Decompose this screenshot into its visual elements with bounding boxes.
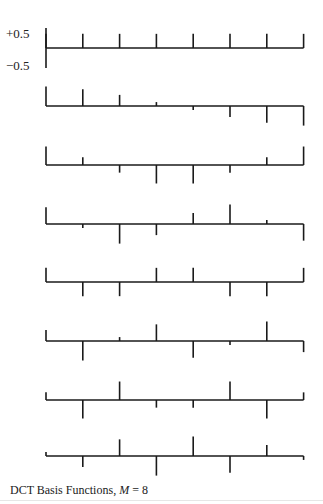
dct-basis-stem-plots [0, 0, 323, 504]
caption-variable: M [119, 483, 129, 497]
figure-caption: DCT Basis Functions, M = 8 [10, 483, 148, 498]
caption-prefix: DCT Basis Functions, [10, 483, 119, 497]
caption-divider [0, 500, 323, 501]
ytick-label-plus: +0.5 [6, 26, 30, 42]
ytick-label-minus: −0.5 [6, 58, 30, 74]
caption-suffix: = 8 [129, 483, 148, 497]
